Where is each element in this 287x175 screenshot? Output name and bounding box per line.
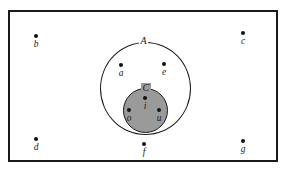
point-label: u: [153, 113, 165, 123]
point-dot: [241, 31, 245, 35]
point-label: g: [237, 144, 249, 154]
point-label: f: [138, 147, 150, 157]
point-dot: [127, 108, 131, 112]
point-dot: [34, 137, 38, 141]
point-label: c: [237, 36, 249, 46]
point-dot: [143, 96, 147, 100]
set-c-label: C: [141, 83, 151, 93]
point-dot: [142, 142, 146, 146]
point-dot: [119, 63, 123, 67]
point-label: d: [30, 142, 42, 152]
point-label: a: [115, 68, 127, 78]
point-label: o: [123, 113, 135, 123]
point-label: i: [139, 101, 151, 111]
set-a-label: A: [139, 36, 148, 46]
point-dot: [162, 62, 166, 66]
point-dot: [157, 108, 161, 112]
point-label: e: [158, 67, 170, 77]
point-dot: [241, 139, 245, 143]
point-dot: [34, 34, 38, 38]
venn-diagram: A C b c d f g a e i o u: [0, 0, 287, 175]
point-label: b: [30, 39, 42, 49]
